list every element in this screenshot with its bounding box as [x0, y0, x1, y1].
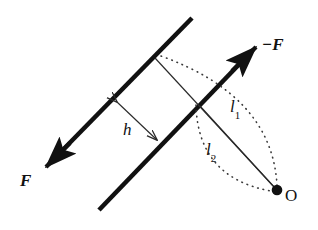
label-l2-subscript: 2 — [211, 152, 217, 164]
label-force-negative: −F — [262, 36, 284, 53]
upper-force-line — [50, 18, 192, 163]
label-moment-arm-l2: l2 — [206, 141, 216, 161]
origin-dot-O — [272, 185, 283, 196]
lower-force-line — [99, 53, 250, 210]
label-perpendicular-distance-h: h — [123, 121, 132, 138]
label-l1-subscript: 1 — [235, 109, 241, 121]
label-moment-arm-l1: l1 — [230, 98, 240, 118]
force-arrow-F — [46, 143, 70, 167]
label-force-positive: F — [20, 172, 31, 189]
label-origin-O: O — [285, 187, 297, 204]
force-couple-diagram: −F F h l1 l2 O — [0, 0, 318, 230]
force-arrow-minus-F — [232, 47, 256, 71]
